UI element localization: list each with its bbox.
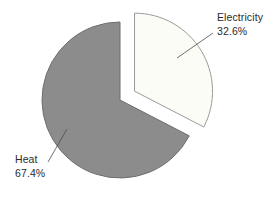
- slice-label-electricity-name: Electricity: [217, 10, 263, 24]
- slice-label-heat: Heat 67.4%: [15, 152, 45, 180]
- pie-chart-figure: Electricity 32.6% Heat 67.4%: [0, 0, 271, 198]
- slice-label-heat-name: Heat: [15, 152, 45, 166]
- pie-slice-electricity: [135, 13, 213, 127]
- slice-label-heat-pct: 67.4%: [15, 166, 45, 180]
- slice-label-electricity-pct: 32.6%: [217, 24, 263, 38]
- slice-label-electricity: Electricity 32.6%: [217, 10, 263, 38]
